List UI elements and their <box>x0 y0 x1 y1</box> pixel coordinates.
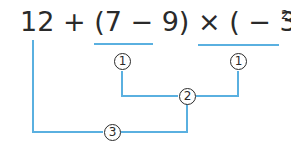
step-1-right-badge: 1 <box>230 53 247 70</box>
step-2-badge: 2 <box>179 88 196 105</box>
step-1-left-badge: 1 <box>114 53 131 70</box>
evaluation-order-lines <box>0 0 291 149</box>
step-3-badge: 3 <box>104 124 121 141</box>
